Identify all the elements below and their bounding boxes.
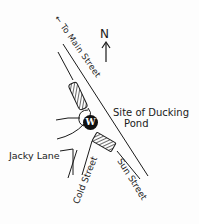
building-south (92, 132, 116, 152)
west-road-upper-edge (56, 118, 80, 120)
north-arrow-icon (102, 42, 110, 62)
pond-marker-icon: W (83, 115, 98, 130)
sketch-map: ← To Main Street N W Site of Ducking Pon… (0, 0, 199, 224)
compass-north-label: N (100, 28, 109, 40)
building-north (68, 81, 88, 110)
jacky-lane-pointer (60, 149, 73, 175)
ducking-pond-label-line2: Pond (124, 119, 148, 129)
jacky-lane-label: Jacky Lane (9, 151, 60, 161)
ducking-pond-label-line1: Site of Ducking (113, 108, 189, 118)
west-road-lower-edge (57, 124, 84, 139)
